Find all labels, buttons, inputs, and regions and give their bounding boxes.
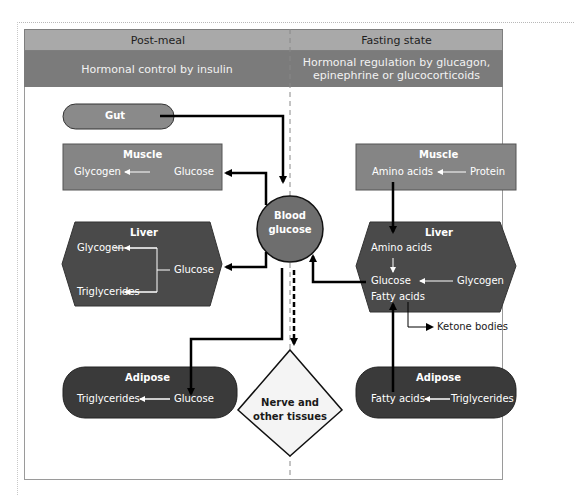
fasting-liver-glucose: Glucose <box>371 275 411 286</box>
adipose-triglycerides: Triglycerides <box>77 393 140 404</box>
liver-glucose: Glucose <box>174 264 214 275</box>
blood-glucose-label: Blood glucose <box>257 209 323 237</box>
ketone-bodies-label: Ketone bodies <box>437 321 508 332</box>
liver-postmeal-label: Liver <box>130 227 158 238</box>
liver-fasting-label: Liver <box>425 227 453 238</box>
liver-glycogen: Glycogen <box>77 242 124 253</box>
fasting-liver-fatty-acids: Fatty acids <box>371 291 425 302</box>
fasting-liver-amino: Amino acids <box>371 242 432 253</box>
nerve-line2: other tissues <box>245 410 335 424</box>
adipose-postmeal-label: Adipose <box>125 372 170 383</box>
gut-label: Gut <box>105 110 125 121</box>
fasting-liver-glycogen: Glycogen <box>457 275 504 286</box>
muscle-fasting-label: Muscle <box>419 149 458 160</box>
nerve-line1: Nerve and <box>245 396 335 410</box>
fasting-muscle-protein: Protein <box>470 166 505 177</box>
fasting-adipose-fatty-acids: Fatty acids <box>371 393 425 404</box>
nerve-tissues-label: Nerve and other tissues <box>245 396 335 424</box>
fasting-muscle-amino: Amino acids <box>372 166 433 177</box>
liver-triglycerides: Triglycerides <box>77 286 140 297</box>
muscle-glycogen: Glycogen <box>74 166 121 177</box>
adipose-fasting-label: Adipose <box>416 372 461 383</box>
muscle-postmeal-label: Muscle <box>123 149 162 160</box>
blood-line2: glucose <box>257 223 323 237</box>
adipose-glucose: Glucose <box>174 393 214 404</box>
fasting-adipose-triglycerides: Triglycerides <box>451 393 514 404</box>
blood-line1: Blood <box>257 209 323 223</box>
muscle-glucose: Glucose <box>174 166 214 177</box>
